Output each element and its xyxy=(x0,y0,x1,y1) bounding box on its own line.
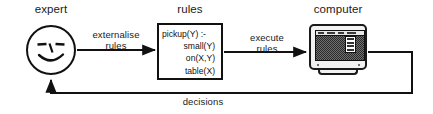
expert-title: expert xyxy=(16,3,86,15)
code-line: pickup(Y) :- xyxy=(162,28,217,40)
menubar-item xyxy=(327,32,335,34)
screen-dropdown-menu xyxy=(345,36,356,53)
computer-monitor-icon xyxy=(309,24,367,76)
right-eye-icon xyxy=(56,44,65,45)
dropdown-item xyxy=(347,38,354,40)
menubar-item xyxy=(318,32,324,34)
rules-box: pickup(Y) :- small(Y) on(X,Y) table(X) xyxy=(157,23,223,80)
code-line: table(X) xyxy=(162,65,217,77)
computer-title: computer xyxy=(298,3,378,15)
edge-label-line-1: externalise xyxy=(80,29,152,40)
menubar-item xyxy=(347,32,356,34)
left-eye-icon xyxy=(38,44,47,45)
dropdown-item xyxy=(347,42,354,44)
monitor-screen xyxy=(315,30,365,61)
screen-menubar xyxy=(316,31,364,36)
menubar-item xyxy=(338,32,344,34)
face-features xyxy=(26,25,76,75)
bezel-indicator-dot xyxy=(358,64,360,66)
dropdown-item xyxy=(347,49,354,51)
code-line: small(Y) xyxy=(162,40,217,52)
monitor-bezel xyxy=(309,24,367,70)
nose-icon xyxy=(50,44,53,53)
smile-icon xyxy=(39,55,63,61)
edge-label-line-2: rules xyxy=(80,40,152,51)
edge-label-line-1: execute xyxy=(235,32,299,43)
dropdown-item xyxy=(347,45,354,47)
edge-label-externalise-rules: externalise rules xyxy=(80,29,152,51)
edge-label-line-2: rules xyxy=(235,43,299,54)
rules-title: rules xyxy=(155,3,225,15)
smiley-face-icon xyxy=(26,25,76,75)
code-line: on(X,Y) xyxy=(162,52,217,64)
rules-code-block: pickup(Y) :- small(Y) on(X,Y) table(X) xyxy=(159,25,221,77)
bezel-indicator-dot xyxy=(317,64,319,66)
edge-label-decisions: decisions xyxy=(168,96,238,107)
monitor-stand xyxy=(318,70,358,75)
knowledge-engineering-diagram: expert externalise rules rules pickup(Y)… xyxy=(0,0,433,114)
edge-label-execute-rules: execute rules xyxy=(235,32,299,54)
